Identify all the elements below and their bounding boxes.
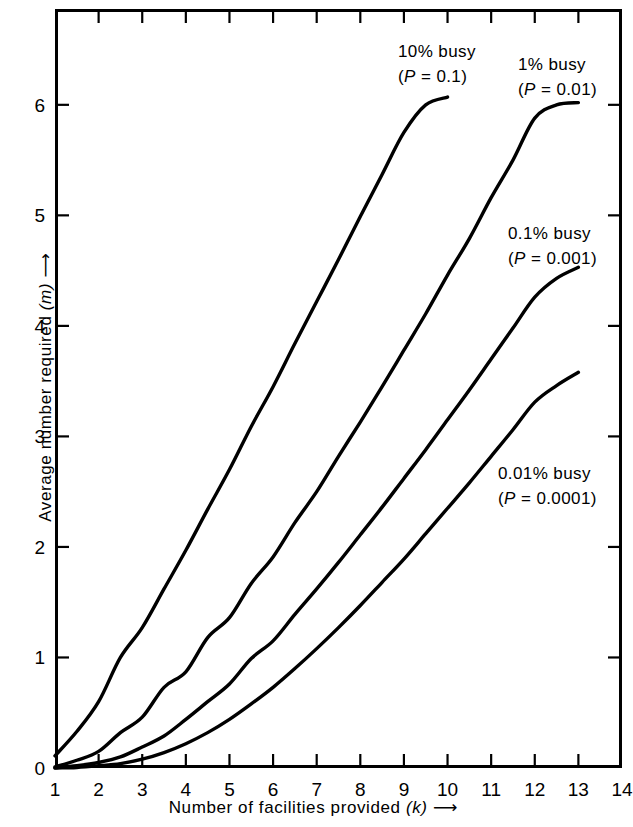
x-axis-title: Number of facilities provided (k) ⟶ xyxy=(0,797,626,818)
annotation-probability-symbol: P xyxy=(514,249,526,268)
x-axis-title-text: Number of facilities provided xyxy=(169,798,401,817)
annotation-probability-value: = 0.0001) xyxy=(516,489,597,508)
annotation-line-2: (P = 0.0001) xyxy=(498,487,597,512)
x-axis-title-symbol: (k) xyxy=(406,798,428,817)
annotation-probability-value: = 0.1) xyxy=(416,67,467,86)
top-tick-marks xyxy=(99,9,579,23)
y-tick-label: 0 xyxy=(17,759,45,778)
x-axis-arrow-icon: ⟶ xyxy=(433,797,457,817)
annotation-busy-0p1: 0.1% busy(P = 0.001) xyxy=(508,222,597,271)
curve-group xyxy=(55,97,578,768)
curve-4 xyxy=(55,372,578,768)
curve-3 xyxy=(55,267,578,768)
annotation-line-2: (P = 0.001) xyxy=(508,247,597,272)
annotation-busy-10: 10% busy(P = 0.1) xyxy=(398,40,476,89)
right-tick-marks xyxy=(608,105,622,658)
annotation-line-2: (P = 0.01) xyxy=(518,78,597,103)
annotation-probability-value: = 0.01) xyxy=(536,80,597,99)
annotation-line-1: 10% busy xyxy=(398,40,476,65)
annotation-busy-0p01: 0.01% busy(P = 0.0001) xyxy=(498,462,597,511)
y-axis-title-symbol: (m) xyxy=(36,283,55,310)
annotation-line-1: 1% busy xyxy=(518,53,597,78)
y-axis-arrow-icon: ⟶ xyxy=(35,253,55,277)
annotation-busy-1: 1% busy(P = 0.01) xyxy=(518,53,597,102)
y-tick-label: 6 xyxy=(17,95,45,114)
annotation-probability-symbol: P xyxy=(504,489,516,508)
annotation-probability-symbol: P xyxy=(404,67,416,86)
y-axis-title: Average number required (m) ⟶ xyxy=(35,128,56,648)
y-axis-title-text: Average number required xyxy=(36,316,55,522)
bottom-tick-marks xyxy=(99,754,579,768)
y-tick-label: 1 xyxy=(17,648,45,667)
curve-2 xyxy=(55,103,578,767)
annotation-line-1: 0.01% busy xyxy=(498,462,597,487)
annotation-line-1: 0.1% busy xyxy=(508,222,597,247)
plot-canvas xyxy=(55,9,622,768)
left-tick-marks xyxy=(55,105,69,658)
annotation-line-2: (P = 0.1) xyxy=(398,65,476,90)
annotation-probability-symbol: P xyxy=(524,80,536,99)
annotation-probability-value: = 0.001) xyxy=(526,249,597,268)
